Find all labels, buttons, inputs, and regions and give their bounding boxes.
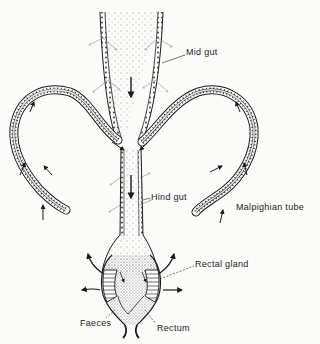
label-hind-gut: Hind gut xyxy=(151,192,187,202)
diagram-canvas: Mid gut Hind gut Malpighian tube Rectal … xyxy=(0,0,320,344)
label-rectal-gland: Rectal gland xyxy=(195,259,249,269)
gut-diagram-figure xyxy=(0,0,320,344)
label-malpighian-tube: Malpighian tube xyxy=(236,202,304,212)
label-rectum: Rectum xyxy=(157,323,190,333)
hind-gut-tube xyxy=(102,148,158,272)
label-faeces: Faeces xyxy=(80,318,111,328)
label-mid-gut: Mid gut xyxy=(186,47,218,57)
malpighian-tubule-left xyxy=(14,90,118,210)
